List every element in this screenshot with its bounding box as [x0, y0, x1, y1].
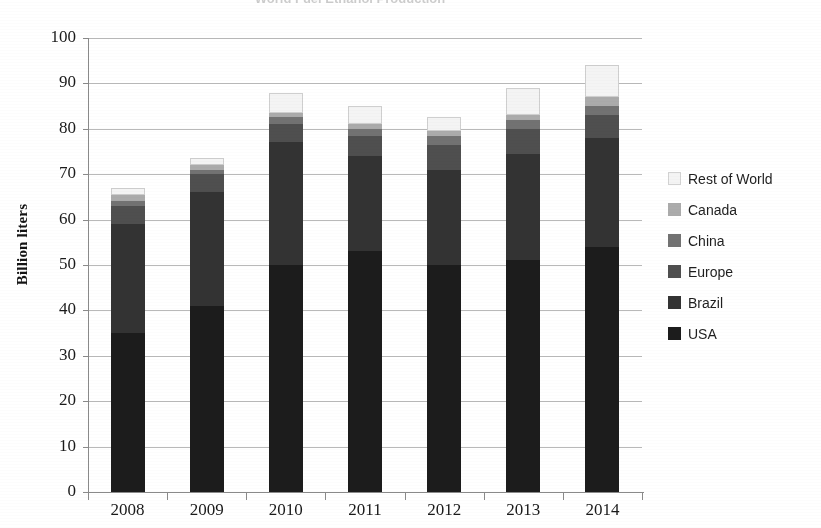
legend-label: USA: [688, 326, 717, 342]
bar-segment[interactable]: [427, 265, 461, 492]
bar-group[interactable]: [427, 38, 461, 492]
bar-segment[interactable]: [190, 174, 224, 192]
x-axis-label: 2014: [562, 500, 642, 520]
x-axis-tick: [88, 493, 89, 500]
y-axis-label: 60: [28, 209, 76, 229]
bar-group[interactable]: [190, 38, 224, 492]
bar-segment[interactable]: [190, 170, 224, 175]
x-axis-tick: [405, 493, 406, 500]
bar-segment[interactable]: [190, 165, 224, 170]
bar-segment[interactable]: [427, 145, 461, 170]
bar-segment[interactable]: [269, 113, 303, 118]
bar-segment[interactable]: [190, 192, 224, 306]
x-axis-tick: [563, 493, 564, 500]
y-axis-label: 40: [28, 299, 76, 319]
y-axis-label: 10: [28, 436, 76, 456]
bar-segment[interactable]: [506, 88, 540, 115]
legend-swatch-icon: [668, 172, 681, 185]
y-axis-tick: [83, 129, 89, 130]
legend-item[interactable]: Brazil: [668, 287, 818, 318]
legend-item[interactable]: Rest of World: [668, 163, 818, 194]
bar-group[interactable]: [111, 38, 145, 492]
legend-item[interactable]: China: [668, 225, 818, 256]
bar-segment[interactable]: [111, 224, 145, 333]
bar-segment[interactable]: [585, 65, 619, 97]
chart-figure: World Fuel Ethanol Production Billion li…: [0, 0, 821, 528]
x-axis-tick: [484, 493, 485, 500]
legend-label: Europe: [688, 264, 733, 280]
bar-segment[interactable]: [269, 117, 303, 124]
y-axis-label: 100: [28, 27, 76, 47]
bar-segment[interactable]: [348, 106, 382, 124]
gridline: [88, 492, 642, 493]
y-axis-tick: [83, 310, 89, 311]
bar-segment[interactable]: [427, 131, 461, 136]
x-axis-tick: [167, 493, 168, 500]
bar-segment[interactable]: [348, 129, 382, 136]
bar-segment[interactable]: [111, 201, 145, 206]
bar-segment[interactable]: [269, 142, 303, 265]
x-axis-tick: [642, 493, 643, 500]
bar-segment[interactable]: [269, 265, 303, 492]
bar-segment[interactable]: [348, 124, 382, 129]
x-axis-tick: [325, 493, 326, 500]
bar-segment[interactable]: [348, 136, 382, 156]
bar-group[interactable]: [585, 38, 619, 492]
bar-segment[interactable]: [190, 306, 224, 492]
y-axis-tick: [83, 38, 89, 39]
legend-swatch-icon: [668, 234, 681, 247]
bar-segment[interactable]: [585, 247, 619, 492]
legend-item[interactable]: USA: [668, 318, 818, 349]
x-axis-label: 2009: [167, 500, 247, 520]
bar-segment[interactable]: [269, 93, 303, 113]
legend-swatch-icon: [668, 327, 681, 340]
legend-label: China: [688, 233, 725, 249]
bar-segment[interactable]: [585, 106, 619, 115]
legend-item[interactable]: Europe: [668, 256, 818, 287]
bar-segment[interactable]: [506, 115, 540, 120]
y-axis-label: 80: [28, 118, 76, 138]
bar-segment[interactable]: [348, 156, 382, 251]
bar-segment[interactable]: [190, 158, 224, 165]
y-axis-tick: [83, 401, 89, 402]
bar-segment[interactable]: [506, 120, 540, 129]
bar-segment[interactable]: [585, 97, 619, 106]
plot-area: [88, 38, 642, 492]
x-axis-label: 2012: [404, 500, 484, 520]
bar-segment[interactable]: [111, 195, 145, 202]
bar-group[interactable]: [269, 38, 303, 492]
legend-label: Rest of World: [688, 171, 773, 187]
y-axis-tick: [83, 220, 89, 221]
y-axis-label: 90: [28, 72, 76, 92]
bar-group[interactable]: [348, 38, 382, 492]
x-axis-label: 2008: [88, 500, 168, 520]
x-axis-label: 2010: [246, 500, 326, 520]
legend-item[interactable]: Canada: [668, 194, 818, 225]
y-axis-label: 50: [28, 254, 76, 274]
bar-segment[interactable]: [269, 124, 303, 142]
bar-segment[interactable]: [111, 188, 145, 195]
legend-label: Canada: [688, 202, 737, 218]
y-axis-tick: [83, 447, 89, 448]
bar-segment[interactable]: [506, 129, 540, 154]
bar-segment[interactable]: [506, 154, 540, 261]
x-axis-tick: [246, 493, 247, 500]
bar-segment[interactable]: [111, 206, 145, 224]
bar-segment[interactable]: [585, 115, 619, 138]
chart-legend: Rest of WorldCanadaChinaEuropeBrazilUSA: [668, 163, 818, 349]
bar-segment[interactable]: [111, 333, 145, 492]
bar-segment[interactable]: [427, 170, 461, 265]
legend-swatch-icon: [668, 296, 681, 309]
chart-title: World Fuel Ethanol Production: [150, 0, 550, 7]
bar-segment[interactable]: [506, 260, 540, 492]
bar-segment[interactable]: [427, 117, 461, 131]
y-axis-tick: [83, 83, 89, 84]
bar-segment[interactable]: [585, 138, 619, 247]
bar-segment[interactable]: [348, 251, 382, 492]
legend-swatch-icon: [668, 265, 681, 278]
bar-group[interactable]: [506, 38, 540, 492]
y-axis-label: 20: [28, 390, 76, 410]
y-axis-tick: [83, 356, 89, 357]
y-axis-tick: [83, 174, 89, 175]
bar-segment[interactable]: [427, 136, 461, 145]
